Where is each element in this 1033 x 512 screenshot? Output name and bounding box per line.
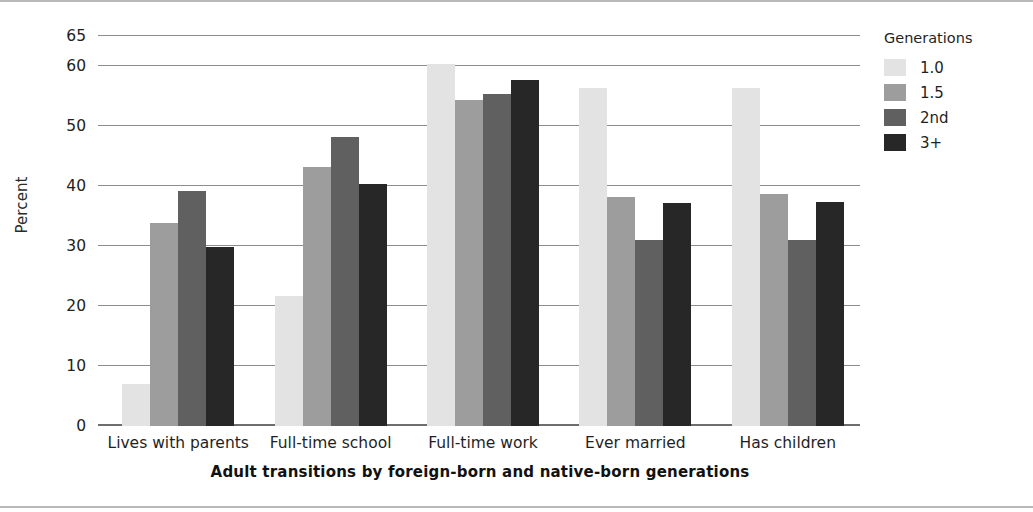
- bar[interactable]: [788, 240, 816, 426]
- bar-group: [427, 36, 539, 426]
- legend-item-label: 1.0: [920, 59, 944, 77]
- y-tick-label-0: 0: [40, 417, 86, 435]
- y-tick-label-60: 60: [40, 57, 86, 75]
- y-axis-title: Percent: [13, 155, 31, 255]
- legend-swatch-3plus-icon: [884, 134, 906, 151]
- bar[interactable]: [663, 203, 691, 426]
- bar-group: [122, 36, 234, 426]
- bar[interactable]: [359, 184, 387, 426]
- bar-group: [275, 36, 387, 426]
- bar[interactable]: [760, 194, 788, 426]
- bar[interactable]: [122, 384, 150, 426]
- x-tick-label: Full-time work: [428, 434, 538, 452]
- bar[interactable]: [607, 197, 635, 426]
- bar[interactable]: [303, 167, 331, 426]
- legend-item-1-0[interactable]: 1.0: [884, 55, 1024, 80]
- y-tick-label-40: 40: [40, 177, 86, 195]
- bar[interactable]: [427, 64, 455, 426]
- bar-group: [732, 36, 844, 426]
- bar[interactable]: [635, 240, 663, 426]
- legend-item-1-5[interactable]: 1.5: [884, 80, 1024, 105]
- bar-chart-figure: Percent 010203040506065 Lives with paren…: [0, 0, 1033, 512]
- x-tick-label: Lives with parents: [108, 434, 249, 452]
- legend-swatch-1-5-icon: [884, 84, 906, 101]
- legend-items: 1.01.52nd3+: [884, 55, 1024, 155]
- y-tick-label-30: 30: [40, 237, 86, 255]
- legend-item-2nd[interactable]: 2nd: [884, 105, 1024, 130]
- legend-item-3plus[interactable]: 3+: [884, 130, 1024, 155]
- bar[interactable]: [816, 202, 844, 426]
- x-axis-title: Adult transitions by foreign-born and na…: [0, 463, 960, 481]
- bar[interactable]: [150, 223, 178, 426]
- bar[interactable]: [206, 247, 234, 426]
- legend-item-label: 3+: [920, 134, 942, 152]
- legend-swatch-2nd-icon: [884, 109, 906, 126]
- y-tick-label-50: 50: [40, 117, 86, 135]
- x-tick-label: Ever married: [585, 434, 686, 452]
- bar[interactable]: [178, 191, 206, 426]
- bar-group: [579, 36, 691, 426]
- legend-title: Generations: [884, 30, 1024, 46]
- bar[interactable]: [579, 88, 607, 426]
- y-tick-label-65: 65: [40, 27, 86, 45]
- bar[interactable]: [732, 88, 760, 426]
- x-tick-label: Has children: [740, 434, 836, 452]
- y-tick-label-10: 10: [40, 357, 86, 375]
- bar[interactable]: [483, 94, 511, 426]
- y-tick-label-20: 20: [40, 297, 86, 315]
- plot-area: 010203040506065 Lives with parentsFull-t…: [98, 36, 860, 426]
- bar[interactable]: [511, 80, 539, 426]
- bar[interactable]: [275, 296, 303, 426]
- x-tick-label: Full-time school: [270, 434, 392, 452]
- legend-swatch-1-0-icon: [884, 59, 906, 76]
- legend-item-label: 2nd: [920, 109, 949, 127]
- bar[interactable]: [455, 100, 483, 426]
- bar[interactable]: [331, 137, 359, 426]
- legend: Generations 1.01.52nd3+: [884, 30, 1024, 155]
- legend-item-label: 1.5: [920, 84, 944, 102]
